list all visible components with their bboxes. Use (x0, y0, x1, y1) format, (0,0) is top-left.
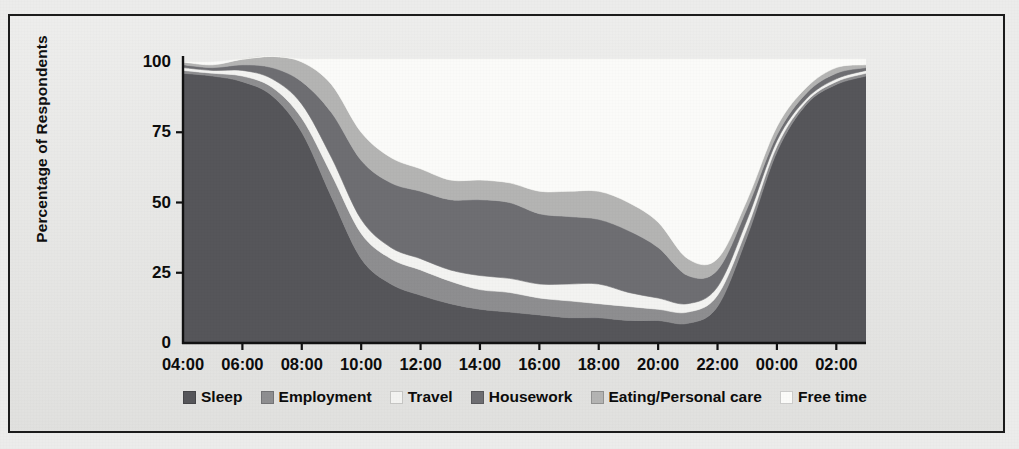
legend-item[interactable]: Travel (390, 388, 453, 406)
chart-container: Percentage of Respondents 0255075100 04:… (0, 0, 1019, 449)
legend-swatch-icon (591, 391, 604, 404)
area-series-group (183, 56, 866, 343)
legend-swatch-icon (471, 391, 484, 404)
legend-label: Sleep (201, 388, 242, 406)
legend-item[interactable]: Free time (780, 388, 867, 406)
x-tick-label: 00:00 (743, 356, 811, 373)
y-tick-label: 0 (0, 334, 171, 351)
x-tick-label: 20:00 (624, 356, 692, 373)
legend-swatch-icon (261, 391, 274, 404)
legend-item[interactable]: Sleep (183, 388, 242, 406)
x-tick-label: 08:00 (268, 356, 336, 373)
x-tick-label: 04:00 (149, 356, 217, 373)
x-tick-label: 16:00 (505, 356, 573, 373)
x-tick-label: 14:00 (446, 356, 514, 373)
legend-swatch-icon (780, 391, 793, 404)
y-tick-label: 50 (0, 194, 171, 211)
y-tick-label: 25 (0, 264, 171, 281)
legend-item[interactable]: Employment (261, 388, 372, 406)
x-tick-label: 02:00 (802, 356, 870, 373)
chart-legend: SleepEmploymentTravelHouseworkEating/Per… (183, 388, 867, 406)
x-tick-label: 12:00 (387, 356, 455, 373)
legend-label: Free time (798, 388, 867, 406)
legend-swatch-icon (183, 391, 196, 404)
legend-label: Travel (408, 388, 453, 406)
x-tick-label: 18:00 (565, 356, 633, 373)
legend-label: Eating/Personal care (609, 388, 762, 406)
legend-item[interactable]: Eating/Personal care (591, 388, 762, 406)
y-tick-label: 100 (0, 53, 171, 70)
x-tick-label: 06:00 (208, 356, 276, 373)
legend-item[interactable]: Housework (471, 388, 573, 406)
x-tick-label: 10:00 (327, 356, 395, 373)
x-tick-label: 22:00 (684, 356, 752, 373)
chart-page: Percentage of Respondents 0255075100 04:… (0, 0, 1019, 449)
legend-label: Employment (279, 388, 372, 406)
legend-label: Housework (489, 388, 573, 406)
legend-swatch-icon (390, 391, 403, 404)
y-tick-label: 75 (0, 123, 171, 140)
